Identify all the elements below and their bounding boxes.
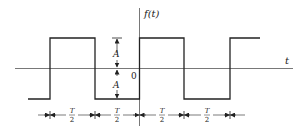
half-period-dimensions: T 2 T 2 T 2 T 2 [38, 106, 245, 124]
origin-label: 0 [131, 71, 137, 81]
svg-text:2: 2 [160, 116, 164, 124]
x-axis-label: t [285, 55, 290, 66]
amplitude-dimension: A A [112, 38, 122, 98]
svg-text:2: 2 [115, 116, 119, 124]
square-wave-diagram: f(t) t 0 A A T [0, 0, 303, 131]
amplitude-label-lower: A [112, 80, 120, 90]
svg-text:2: 2 [205, 116, 209, 124]
amplitude-label-upper: A [112, 49, 120, 59]
y-axis-label: f(t) [143, 8, 160, 19]
svg-text:2: 2 [70, 116, 74, 124]
